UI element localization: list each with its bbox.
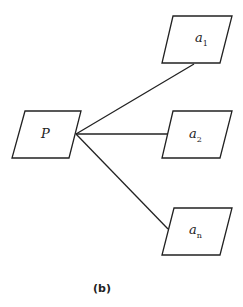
node-a1-label: a1 — [195, 30, 208, 48]
node-a2-label: a2 — [189, 126, 202, 144]
edge-p-a1 — [76, 64, 194, 134]
figure-caption: (b) — [93, 282, 111, 295]
node-an-label: an — [189, 222, 202, 240]
edge-p-an — [76, 134, 168, 229]
node-p-label: P — [41, 126, 50, 141]
